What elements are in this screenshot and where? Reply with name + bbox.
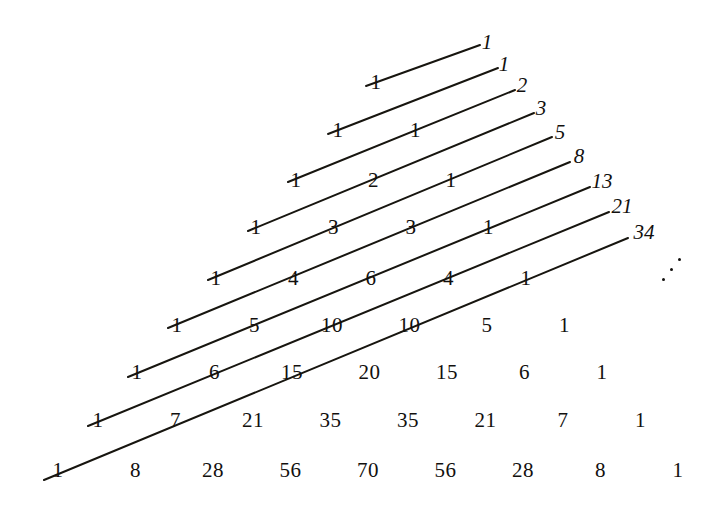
pascal-cell-r5-c2: 10 [321, 315, 343, 336]
pascal-cell-r6-c3: 20 [359, 362, 381, 383]
pascal-cell-r3-c1: 3 [328, 217, 339, 238]
pascal-cell-r7-c4: 35 [397, 410, 419, 431]
pascal-cell-r4-c3: 4 [443, 268, 454, 289]
pascal-cell-r2-c2: 1 [446, 170, 457, 191]
pascal-cell-r8-c6: 28 [512, 460, 534, 481]
pascal-cell-r2-c0: 1 [291, 170, 302, 191]
pascal-fibonacci-figure: 1111211331146411510105116152015611721353… [0, 0, 720, 516]
pascal-cell-r5-c1: 5 [249, 315, 260, 336]
pascal-cell-r8-c0: 1 [53, 460, 64, 481]
pascal-cell-r8-c1: 8 [130, 460, 141, 481]
pascal-cell-r7-c2: 21 [242, 410, 264, 431]
pascal-cell-r7-c6: 7 [558, 410, 569, 431]
pascal-cell-r5-c3: 10 [399, 315, 421, 336]
pascal-cell-r1-c1: 1 [410, 120, 421, 141]
pascal-cell-r8-c4: 70 [357, 460, 379, 481]
fibonacci-sum-label-6: 13 [592, 171, 613, 192]
pascal-cell-r1-c0: 1 [333, 120, 344, 141]
fibonacci-sum-label-8: 34 [634, 222, 655, 243]
pascal-cell-r0-c0: 1 [371, 72, 382, 93]
pascal-cell-r8-c5: 56 [435, 460, 457, 481]
fibonacci-sum-label-3: 3 [536, 98, 547, 119]
fibonacci-sum-label-2: 2 [517, 75, 528, 96]
diagonal-line-4 [208, 137, 552, 280]
pascal-cell-r3-c0: 1 [251, 217, 262, 238]
pascal-cell-r8-c3: 56 [280, 460, 302, 481]
pascal-cell-r3-c2: 3 [406, 217, 417, 238]
pascal-cell-r7-c0: 1 [93, 410, 104, 431]
pascal-cell-r4-c0: 1 [211, 268, 222, 289]
pascal-cell-r8-c7: 8 [595, 460, 606, 481]
pascal-cell-r7-c1: 7 [170, 410, 181, 431]
pascal-cell-r5-c5: 1 [559, 315, 570, 336]
pascal-cell-r6-c6: 1 [597, 362, 608, 383]
pascal-cell-r4-c2: 6 [366, 268, 377, 289]
pascal-cell-r6-c5: 6 [519, 362, 530, 383]
fibonacci-sum-label-7: 21 [612, 196, 633, 217]
diagonal-line-7 [88, 212, 609, 426]
pascal-cell-r5-c0: 1 [172, 315, 183, 336]
pascal-cell-r6-c2: 15 [281, 362, 303, 383]
diagonal-line-2 [288, 90, 515, 182]
pascal-cell-r4-c4: 1 [521, 268, 532, 289]
pascal-cell-r6-c1: 6 [209, 362, 220, 383]
fibonacci-sum-label-4: 5 [555, 122, 566, 143]
pascal-cell-r7-c3: 35 [320, 410, 342, 431]
pascal-cell-r6-c4: 15 [436, 362, 458, 383]
fibonacci-sum-label-0: 1 [482, 32, 493, 53]
pascal-cell-r4-c1: 4 [288, 268, 299, 289]
pascal-cell-r2-c1: 2 [368, 170, 379, 191]
pascal-cell-r7-c5: 21 [475, 410, 497, 431]
pascal-cell-r7-c7: 1 [635, 410, 646, 431]
fibonacci-sum-label-5: 8 [574, 146, 585, 167]
pascal-cell-r8-c8: 1 [673, 460, 684, 481]
pascal-cell-r3-c3: 1 [483, 217, 494, 238]
diagonal-line-0 [366, 45, 480, 86]
pascal-cell-r5-c4: 5 [482, 315, 493, 336]
pascal-cell-r6-c0: 1 [132, 362, 143, 383]
diagonal-lines-layer [0, 0, 720, 516]
pascal-cell-r8-c2: 28 [202, 460, 224, 481]
diagonal-ellipsis-icon [660, 258, 686, 284]
fibonacci-sum-label-1: 1 [499, 54, 510, 75]
